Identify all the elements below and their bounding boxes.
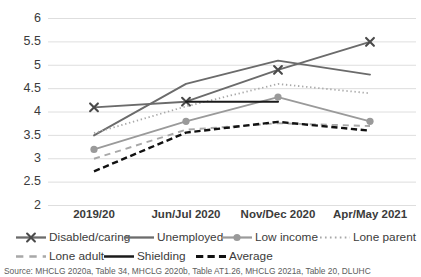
legend-label-shielding[interactable]: Shielding	[137, 249, 186, 263]
x-axis-tick-label: Apr/May 2021	[333, 208, 408, 220]
y-axis-tick-label: 5	[34, 58, 41, 72]
legend-label-unemployed[interactable]: Unemployed	[157, 230, 223, 244]
series-line-unemployed	[94, 61, 370, 136]
source-note: Source: MHCLG 2020a, Table 34, MHCLG 202…	[4, 266, 371, 276]
y-axis-tick-label: 6	[34, 11, 41, 25]
y-axis-tick-label: 4.5	[24, 81, 41, 95]
x-axis-tick-labels: 2019/20Jun/Jul 2020Nov/Dec 2020Apr/May 2…	[73, 208, 407, 220]
data-point-marker	[182, 118, 189, 125]
y-axis-tick-label: 5.5	[24, 34, 41, 48]
source-note-text: Source: MHCLG 2020a, Table 34, MHCLG 202…	[4, 266, 371, 276]
y-axis-tick-label: 2	[34, 198, 41, 212]
y-axis-tick-label: 3	[34, 151, 41, 165]
gridlines	[48, 19, 416, 206]
x-axis-tick-label: Nov/Dec 2020	[241, 208, 316, 220]
x-axis-tick-label: Jun/Jul 2020	[151, 208, 220, 220]
series-line-disabled-caring	[94, 42, 370, 107]
y-axis-tick-label: 3.5	[24, 128, 41, 142]
y-axis-tick-labels: 65.554.543.532.52	[24, 11, 41, 212]
y-axis-tick-label: 4	[34, 104, 41, 118]
line-chart: 65.554.543.532.52 2019/20Jun/Jul 2020Nov…	[0, 0, 421, 277]
series-line-average	[94, 122, 370, 172]
legend-label-lone-parent[interactable]: Lone parent	[353, 230, 417, 244]
y-axis-tick-label: 2.5	[24, 174, 41, 188]
data-point-marker	[274, 93, 281, 100]
legend-label-average[interactable]: Average	[229, 249, 273, 263]
chart-legend: Disabled/caringUnemployedLow incomeLone …	[16, 230, 417, 263]
x-axis-tick-label: 2019/20	[73, 208, 115, 220]
data-series-group	[90, 38, 374, 171]
data-point-marker	[90, 146, 97, 153]
legend-label-disabled-caring[interactable]: Disabled/caring	[49, 230, 130, 244]
legend-label-low-income[interactable]: Low income	[255, 230, 318, 244]
chart-container: 65.554.543.532.52 2019/20Jun/Jul 2020Nov…	[0, 0, 421, 277]
data-point-marker	[366, 118, 373, 125]
legend-marker	[233, 234, 240, 241]
legend-label-lone-adult[interactable]: Lone adult	[49, 249, 105, 263]
